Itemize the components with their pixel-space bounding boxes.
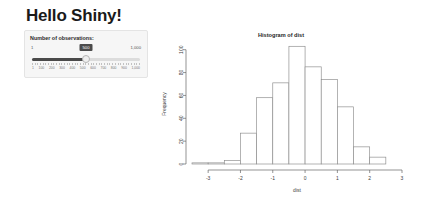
y-axis-title: Frequency	[161, 92, 167, 116]
histogram-bar	[273, 83, 289, 164]
slider-scale-label: 400	[70, 65, 76, 72]
slider-scale-label: 200	[49, 65, 55, 72]
slider-scale-labels: 1 100 200 300 400 500 600 700 800 900 1,…	[30, 65, 142, 72]
x-axis-tick-label: 0	[304, 175, 307, 181]
slider-scale-label: 500	[80, 65, 86, 72]
x-axis-tick-label: 3	[401, 175, 404, 181]
slider-fill	[32, 58, 88, 61]
slider-scale-label: 900	[121, 65, 127, 72]
histogram-bars	[192, 46, 386, 164]
slider-value-bubble: 500	[80, 44, 93, 51]
observations-slider[interactable]	[30, 54, 142, 64]
slider-scale-label: 700	[101, 65, 107, 72]
y-axis-tick-label: 20	[178, 138, 184, 144]
histogram-svg: 020406080100-3-2-10123distFrequency	[150, 26, 412, 204]
histogram-bar	[224, 161, 240, 164]
histogram-bar	[257, 98, 273, 164]
x-axis-title: dist	[293, 187, 301, 193]
histogram-bar	[192, 163, 208, 164]
y-axis-tick-label: 100	[178, 45, 184, 54]
sidebar-well-panel: Number of observations: 1 500 1,000 1 10…	[24, 30, 148, 78]
page-title: Hello Shiny!	[26, 6, 122, 26]
slider-scale-label: 300	[59, 65, 65, 72]
histogram-bar	[321, 79, 337, 164]
y-axis-tick-label: 40	[178, 115, 184, 121]
x-axis-tick-label: 1	[336, 175, 339, 181]
slider-scale-label: 800	[111, 65, 117, 72]
y-axis-tick-label: 80	[178, 70, 184, 76]
slider-scale-label: 1,000	[132, 65, 141, 72]
histogram-bar	[370, 157, 386, 164]
y-axis-tick-label: 60	[178, 92, 184, 98]
x-axis-tick-label: -2	[238, 175, 243, 181]
histogram-bar	[305, 67, 321, 164]
slider-max-label: 1,000	[131, 45, 141, 50]
histogram-bar	[289, 46, 305, 164]
histogram-bar	[354, 147, 370, 164]
slider-label: Number of observations:	[30, 35, 142, 42]
slider-scale-label: 100	[39, 65, 45, 72]
x-axis-tick-label: 2	[368, 175, 371, 181]
slider-min-label: 1	[31, 45, 33, 50]
histogram-bar	[240, 133, 256, 164]
histogram-bar	[208, 163, 224, 164]
y-axis-tick-label: 0	[178, 162, 184, 165]
slider-scale-label: 600	[90, 65, 96, 72]
x-axis-tick-label: -3	[206, 175, 211, 181]
slider-value-row: 1 500 1,000	[30, 44, 142, 53]
x-axis-tick-label: -1	[271, 175, 276, 181]
slider-scale-label: 1	[32, 65, 34, 72]
histogram-plot-panel: Histogram of dist 020406080100-3-2-10123…	[150, 26, 412, 204]
histogram-bar	[337, 107, 353, 164]
